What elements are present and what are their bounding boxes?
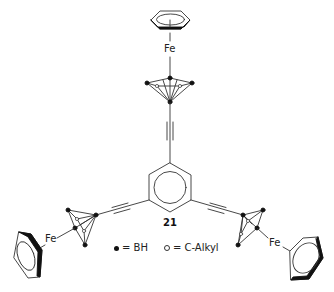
right-fe-label: Fe bbox=[269, 238, 280, 248]
top-alkyne-bond bbox=[167, 102, 173, 163]
open-circle-icon bbox=[164, 245, 170, 251]
legend-c-alkyl-label: = C-Alkyl bbox=[173, 243, 219, 253]
right-fe-cage-bond bbox=[257, 228, 268, 238]
left-fe-label: Fe bbox=[45, 234, 56, 244]
right-alkyne-bond bbox=[191, 200, 243, 215]
top-arene-ring bbox=[151, 11, 190, 29]
left-arene-ring bbox=[13, 232, 42, 278]
right-arene-ring bbox=[288, 237, 325, 280]
top-carborane-cage bbox=[145, 76, 194, 104]
legend: = BH = C-Alkyl bbox=[114, 243, 219, 253]
compound-number-label: 21 bbox=[163, 218, 177, 228]
filled-circle-icon bbox=[114, 246, 119, 251]
central-benzene-ring bbox=[149, 163, 191, 212]
left-carborane-cage bbox=[66, 208, 98, 247]
top-fe-label: Fe bbox=[164, 44, 175, 54]
left-fe-cage-bond bbox=[57, 228, 75, 238]
left-alkyne-bond bbox=[96, 200, 149, 215]
legend-bh-label: = BH bbox=[122, 243, 148, 253]
